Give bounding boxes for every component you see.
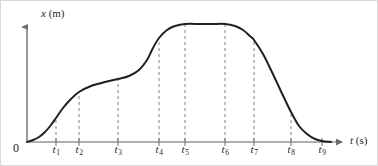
x-tick-label-t4: t4 — [156, 144, 163, 155]
x-tick-label-t8: t8 — [288, 144, 295, 155]
y-axis-unit: (m) — [46, 7, 65, 19]
x-axis-label: t (s) — [350, 135, 367, 146]
x-tick-label-t9: t9 — [319, 144, 326, 155]
origin-label: 0 — [13, 142, 19, 154]
position-time-curve — [27, 24, 331, 142]
x-tick-label-t1: t1 — [53, 144, 60, 155]
y-axis-label: x (m) — [41, 8, 65, 19]
x-tick-label-t7: t7 — [251, 144, 258, 155]
x-tick-label-t6: t6 — [222, 144, 229, 155]
x-tick-label-t2: t2 — [76, 144, 83, 155]
x-axis-unit: (s) — [353, 134, 367, 146]
position-time-figure: x (m) t (s) 0 t1t2t3t4t5t6t7t8t9 — [0, 0, 378, 166]
x-tick-label-t5: t5 — [182, 144, 189, 155]
graph-canvas — [1, 1, 378, 166]
x-tick-label-t3: t3 — [115, 144, 122, 155]
